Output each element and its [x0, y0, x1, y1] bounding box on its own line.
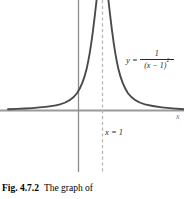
equation-label: y = 1 (x − 1)2: [126, 50, 174, 70]
equation-denominator: (x − 1)2: [143, 60, 170, 70]
x-axis-label: x: [176, 113, 180, 121]
equation-fraction: 1 (x − 1)2: [140, 50, 174, 70]
figure-caption-id: Fig. 4.7.2: [2, 183, 39, 193]
plot-area: [0, 0, 184, 176]
equation-lhs: y =: [126, 56, 138, 65]
curve-left-branch: [8, 0, 97, 109]
figure-caption-text: The graph of: [44, 183, 93, 193]
equation-denominator-base: (x − 1): [144, 61, 166, 70]
equation-denominator-exponent: 2: [166, 57, 169, 63]
equation-numerator: 1: [153, 50, 161, 59]
asymptote-label: x = 1: [105, 128, 123, 137]
figure-caption: Fig. 4.7.2The graph of: [2, 183, 184, 194]
figure-container: y = 1 (x − 1)2 x = 1 x Fig. 4.7.2The gra…: [0, 0, 184, 199]
